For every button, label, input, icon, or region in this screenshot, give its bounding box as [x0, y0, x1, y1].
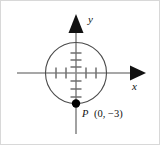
x-axis-arrow-icon	[130, 66, 146, 81]
point-p-coordinates: (0, −3)	[94, 108, 123, 120]
point-p-marker	[72, 99, 80, 107]
graph-figure: y x P (0, −3)	[0, 0, 160, 145]
y-axis-label: y	[87, 13, 93, 25]
point-p-name: P	[81, 108, 89, 119]
y-axis-arrow-icon	[69, 14, 84, 33]
x-axis-label: x	[131, 80, 137, 92]
point-p-label: P (0, −3)	[81, 108, 123, 120]
coordinate-plane-svg: y x P (0, −3)	[1, 1, 160, 145]
